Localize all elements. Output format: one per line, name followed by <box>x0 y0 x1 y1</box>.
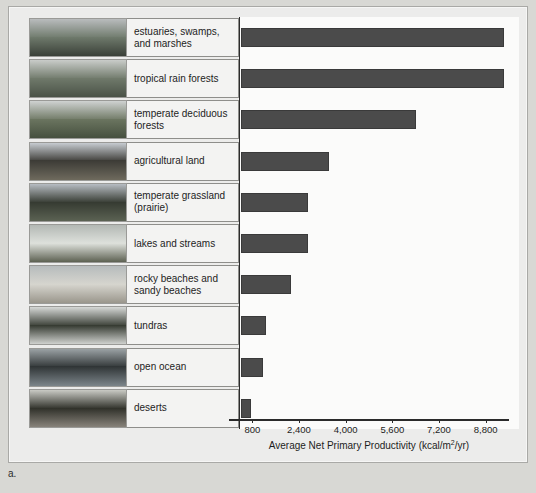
x-tick <box>439 419 440 423</box>
chart-body: estuaries, swamps,and marshestropical ra… <box>19 17 519 429</box>
thumb-ground <box>30 408 126 427</box>
thumb-ground <box>30 119 126 138</box>
thumb-ground <box>30 366 126 385</box>
category-label-line2: and marshes <box>134 38 192 49</box>
x-axis-title: Average Net Primary Productivity (kcal/m… <box>229 439 509 451</box>
chart-row: tropical rain forests <box>19 58 519 99</box>
category-label: tundras <box>134 320 167 332</box>
category-label: tropical rain forests <box>134 73 218 85</box>
tropical-rain-forest-photo <box>29 59 127 98</box>
category-label: lakes and streams <box>134 238 215 250</box>
thumb-sky <box>30 266 126 285</box>
lakes-and-streams-photo <box>29 224 127 263</box>
category-label: deserts <box>134 402 167 414</box>
x-tick-label: 5,600 <box>380 424 404 435</box>
agricultural-land-photo <box>29 142 127 181</box>
rocky-sandy-beaches-photo <box>29 265 127 304</box>
chart-row: estuaries, swamps,and marshes <box>19 17 519 58</box>
category-label-line2: (prairie) <box>134 202 168 213</box>
temperate-deciduous-forest-photo <box>29 100 127 139</box>
chart-row: tundras <box>19 305 519 346</box>
chart-row: temperate grassland(prairie) <box>19 182 519 223</box>
category-label: estuaries, swamps,and marshes <box>134 26 220 50</box>
x-tick-label: 8,800 <box>474 424 498 435</box>
category-label-line2: forests <box>134 120 164 131</box>
thumb-sky <box>30 349 126 368</box>
category-label: temperate deciduousforests <box>134 108 227 132</box>
panel-letter: a. <box>8 468 16 479</box>
chart-row: deserts <box>19 388 519 429</box>
category-label: temperate grassland(prairie) <box>134 190 225 214</box>
thumb-sky <box>30 390 126 409</box>
tundra-photo <box>29 306 127 345</box>
x-tick <box>299 419 300 423</box>
thumb-sky <box>30 225 126 244</box>
thumb-ground <box>30 78 126 97</box>
category-label: open ocean <box>134 361 186 373</box>
category-label-cell: temperate deciduousforests <box>127 100 239 139</box>
thumb-ground <box>30 325 126 344</box>
category-label-cell: tropical rain forests <box>127 59 239 98</box>
thumb-sky <box>30 19 126 38</box>
figure-frame: estuaries, swamps,and marshestropical ra… <box>8 6 528 463</box>
chart-row: agricultural land <box>19 141 519 182</box>
thumb-sky <box>30 101 126 120</box>
desert-photo <box>29 389 127 428</box>
x-tick <box>346 419 347 423</box>
chart-row: lakes and streams <box>19 223 519 264</box>
category-label-cell: deserts <box>127 389 239 428</box>
thumb-ground <box>30 243 126 262</box>
category-label-cell: estuaries, swamps,and marshes <box>127 18 239 57</box>
x-tick <box>252 419 253 423</box>
category-label-line2: sandy beaches <box>134 285 201 296</box>
x-axis-line <box>229 419 509 421</box>
chart-row: temperate deciduousforests <box>19 99 519 140</box>
x-tick <box>486 419 487 423</box>
x-tick <box>392 419 393 423</box>
category-label: agricultural land <box>134 155 205 167</box>
chart-row: rocky beaches andsandy beaches <box>19 264 519 305</box>
thumb-ground <box>30 160 126 179</box>
category-label-cell: lakes and streams <box>127 224 239 263</box>
thumb-sky <box>30 60 126 79</box>
category-label-cell: temperate grassland(prairie) <box>127 183 239 222</box>
category-label-cell: tundras <box>127 306 239 345</box>
thumb-sky <box>30 143 126 162</box>
x-axis-title-tail: /yr) <box>455 440 469 451</box>
category-label: rocky beaches andsandy beaches <box>134 273 218 297</box>
thumb-sky <box>30 184 126 203</box>
category-label-cell: rocky beaches andsandy beaches <box>127 265 239 304</box>
thumb-ground <box>30 37 126 56</box>
thumb-sky <box>30 307 126 326</box>
thumb-ground <box>30 284 126 303</box>
thumb-ground <box>30 202 126 221</box>
temperate-grassland-photo <box>29 183 127 222</box>
x-tick-label: 7,200 <box>427 424 451 435</box>
x-axis-title-main: Average Net Primary Productivity (kcal/m <box>269 440 451 451</box>
open-ocean-photo <box>29 348 127 387</box>
chart-row: open ocean <box>19 347 519 388</box>
x-tick-label: 2,400 <box>287 424 311 435</box>
x-tick-label: 4,000 <box>334 424 358 435</box>
category-label-cell: agricultural land <box>127 142 239 181</box>
x-tick-label: 800 <box>244 424 260 435</box>
estuary-marsh-photo <box>29 18 127 57</box>
category-label-cell: open ocean <box>127 348 239 387</box>
